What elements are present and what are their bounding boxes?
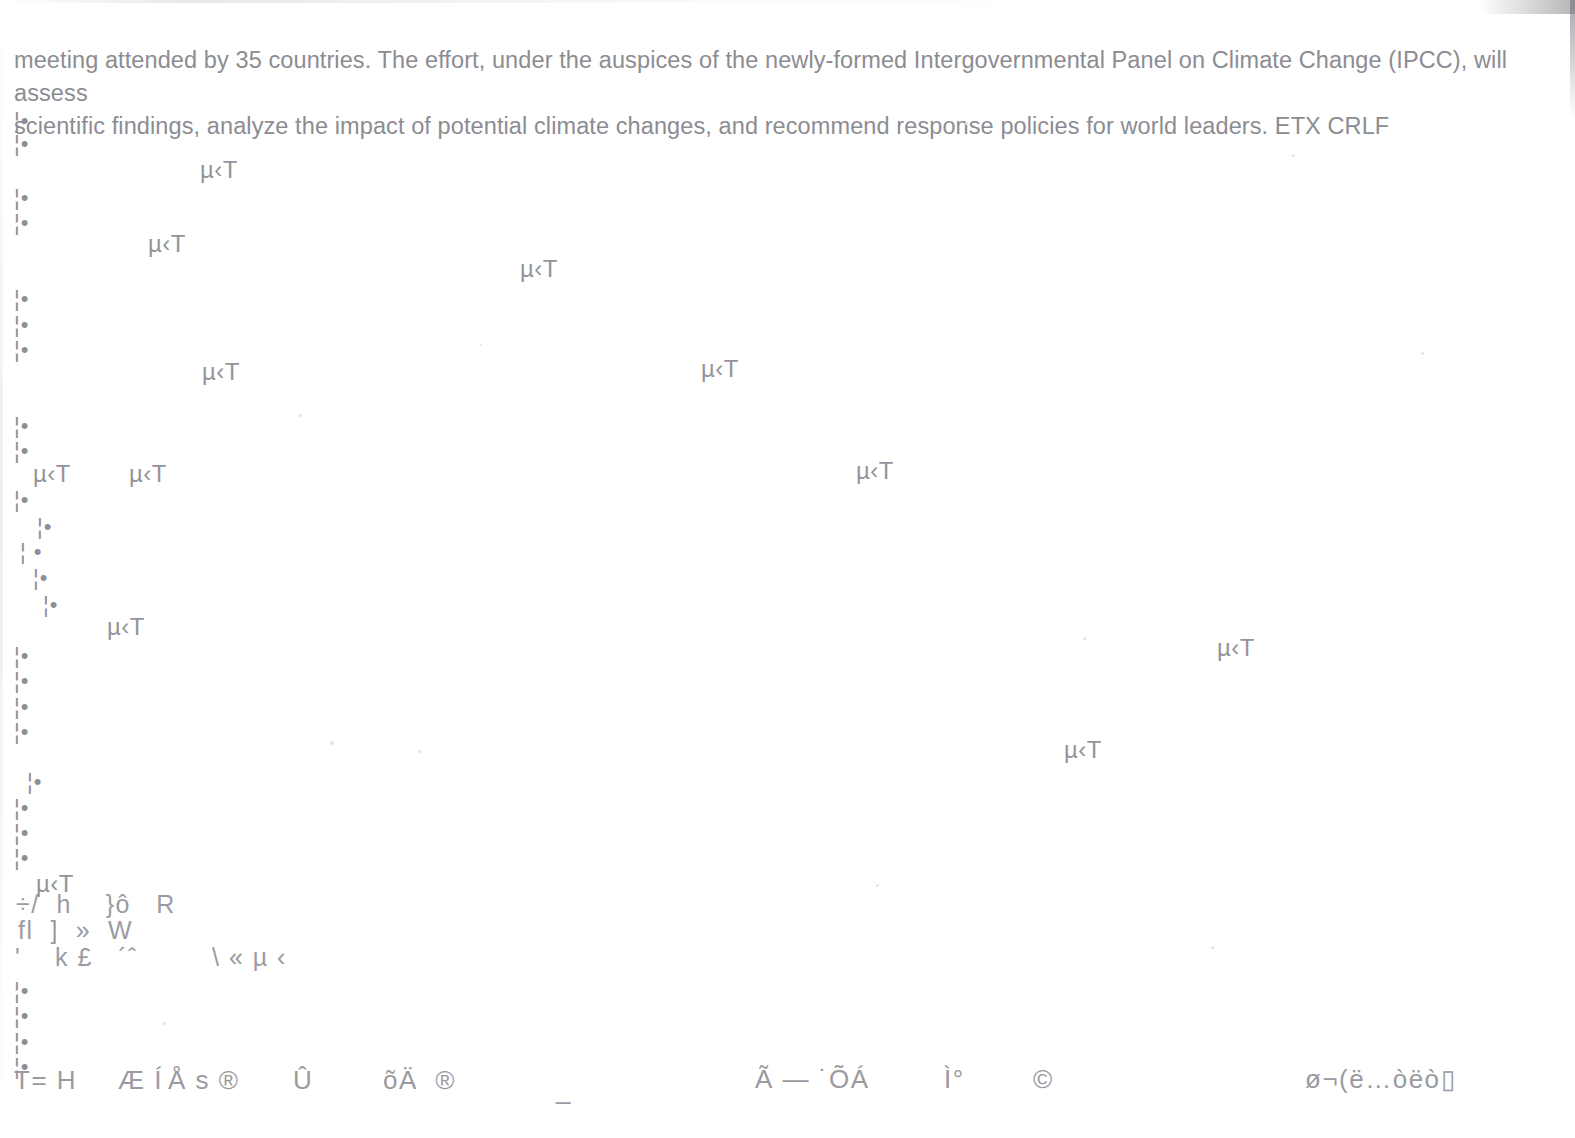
ocr-mu-glyph: µ‹T — [701, 357, 739, 381]
footer-glyph: © — [1033, 1066, 1054, 1092]
scan-edge-top-artifact — [0, 0, 1575, 3]
footer-glyph: Å s ® — [168, 1067, 239, 1093]
footer-glyph: õÄ ® — [383, 1067, 456, 1093]
ocr-mu-glyph: µ‹T — [1064, 738, 1102, 762]
margin-marker-glyph: ¦• — [14, 822, 29, 844]
margin-marker-glyph: ¦• — [27, 771, 42, 793]
paper-speck — [1083, 637, 1086, 640]
margin-marker-glyph: ¦• — [14, 847, 29, 869]
footer-glyph: Ì° — [944, 1066, 965, 1092]
document-body-paragraph: meeting attended by 35 countries. The ef… — [14, 44, 1524, 143]
margin-marker-glyph: ¦• — [43, 594, 58, 616]
ocr-mixed-glyph: ÷/ h }ô R — [16, 892, 176, 917]
margin-marker-glyph: ¦• — [14, 415, 29, 437]
footer-glyph: Ã — ˙ÕÁ — [755, 1066, 870, 1092]
ocr-mu-glyph: µ‹T — [1217, 636, 1255, 660]
ocr-mixed-glyph: fl ] » W — [18, 918, 133, 943]
ocr-mu-glyph: µ‹T — [200, 158, 238, 182]
margin-marker-glyph: ¦• — [14, 489, 29, 511]
margin-marker-glyph: ¦ • — [20, 541, 43, 563]
ocr-mu-glyph: µ‹T — [520, 257, 558, 281]
paper-speck — [330, 741, 334, 745]
ocr-mixed-glyph: \ « µ ‹ — [212, 945, 287, 970]
footer-glyph: _ — [556, 1077, 572, 1103]
ocr-mu-glyph: µ‹T — [129, 462, 167, 486]
margin-marker-glyph: ¦• — [37, 516, 52, 538]
paper-speck — [163, 1022, 166, 1025]
margin-marker-glyph: ¦• — [14, 314, 29, 336]
margin-marker-glyph: ¦• — [14, 797, 29, 819]
margin-marker-glyph: ¦• — [14, 980, 29, 1002]
margin-marker-glyph: ¦• — [14, 696, 29, 718]
scanned-document-page: meeting attended by 35 countries. The ef… — [0, 0, 1575, 1138]
margin-marker-glyph: ¦• — [14, 187, 29, 209]
paper-speck — [418, 750, 421, 753]
scan-edge-top-right-artifact — [1480, 0, 1575, 14]
paper-speck — [299, 414, 302, 417]
ocr-mu-glyph: µ‹T — [33, 462, 71, 486]
scan-edge-left-artifact — [0, 0, 3, 1138]
footer-glyph: Æ Í — [118, 1067, 163, 1093]
margin-marker-glyph: ¦• — [14, 721, 29, 743]
paper-speck — [480, 344, 482, 346]
ocr-mu-glyph: µ‹T — [202, 360, 240, 384]
margin-marker-glyph: ¦• — [14, 110, 29, 132]
margin-marker-glyph: ¦• — [14, 133, 29, 155]
margin-marker-glyph: ¦• — [14, 1005, 29, 1027]
ocr-mu-glyph: µ‹T — [107, 615, 145, 639]
paper-speck — [876, 884, 879, 887]
footer-glyph: T= H — [14, 1067, 77, 1093]
footer-glyph: Û — [293, 1067, 313, 1093]
margin-marker-glyph: ¦• — [14, 440, 29, 462]
footer-glyph: ø¬(ë…òëò▯ — [1305, 1066, 1456, 1092]
margin-marker-glyph: ¦• — [14, 339, 29, 361]
margin-marker-glyph: ¦• — [14, 288, 29, 310]
margin-marker-glyph: ¦• — [14, 645, 29, 667]
ocr-mu-glyph: µ‹T — [148, 232, 186, 256]
paper-speck — [1211, 946, 1214, 949]
ocr-mixed-glyph: ' k £ ´ˆ — [15, 945, 138, 970]
scan-edge-right-artifact — [1570, 0, 1575, 120]
margin-marker-glyph: ¦• — [14, 670, 29, 692]
margin-marker-glyph: ¦• — [14, 1031, 29, 1053]
paper-speck — [1421, 352, 1424, 355]
paper-speck — [1292, 154, 1295, 157]
ocr-mu-glyph: µ‹T — [856, 459, 894, 483]
margin-marker-glyph: ¦• — [14, 212, 29, 234]
margin-marker-glyph: ¦• — [33, 567, 48, 589]
